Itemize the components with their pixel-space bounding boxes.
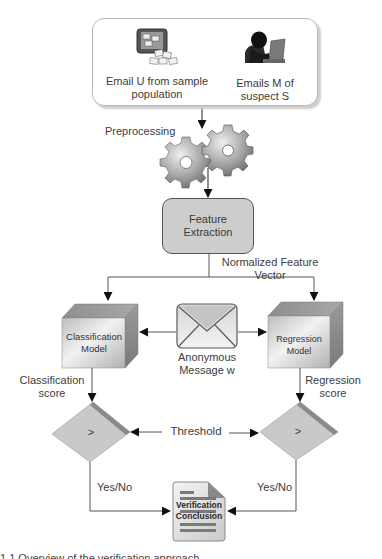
regression-score-label-line2: score xyxy=(320,387,347,399)
verification-conclusion-label-line1: Verification xyxy=(176,500,222,510)
anonymous-message-label-line2: Message w xyxy=(179,364,235,376)
figure-caption: 1.1 Overview of the verification approac… xyxy=(0,549,199,559)
feature-extraction-label-line1: Feature xyxy=(189,213,227,225)
hooded-suspect-laptop-icon xyxy=(241,31,287,63)
suspect-emails-label-line2: suspect S xyxy=(241,90,289,102)
classification-score-label-line1: Classification xyxy=(20,374,85,386)
sample-population-label: Email U from sample population xyxy=(101,75,213,101)
regression-score-label-line1: Regression xyxy=(305,374,361,386)
left-comparator-symbol: > xyxy=(84,426,98,439)
verification-conclusion-label-line2: Conclusion xyxy=(176,511,222,521)
regression-model-label-line2: Model xyxy=(287,346,312,356)
feature-vector-label: Normalized Feature Vector xyxy=(212,256,328,282)
suspect-emails-label-line1: Emails M of xyxy=(236,77,293,89)
feature-vector-label-line2: Vector xyxy=(254,269,285,281)
computer-with-emails-icon xyxy=(133,27,179,67)
classification-model-label-line2: Model xyxy=(81,343,107,354)
classification-model-label-line1: Classification xyxy=(66,331,122,342)
regression-score-label: Regression score xyxy=(302,374,364,400)
right-yes-no-label: Yes/No xyxy=(257,481,292,494)
classification-score-label-line2: score xyxy=(39,387,66,399)
classification-score-label: Classification score xyxy=(14,374,90,400)
feature-extraction-label-line2: Extraction xyxy=(184,226,233,238)
verification-conclusion-label: Verification Conclusion xyxy=(168,500,230,522)
regression-model-label-line1: Regression xyxy=(276,334,322,344)
left-yes-no-label: Yes/No xyxy=(97,481,132,494)
right-comparator-symbol: > xyxy=(291,425,305,438)
anonymous-message-label: Anonymous Message w xyxy=(166,351,248,377)
sample-population-label-line1: Email U from sample xyxy=(106,75,208,87)
anonymous-message-label-line1: Anonymous xyxy=(178,351,236,363)
classification-model-label: Classification Model xyxy=(60,331,128,355)
sample-population-label-line2: population xyxy=(132,88,183,100)
regression-model-label: Regression Model xyxy=(266,333,332,357)
threshold-label: Threshold xyxy=(164,425,228,438)
preprocessing-label: Preprocessing xyxy=(105,125,175,138)
source-emails-box: Email U from sample population Emails M … xyxy=(92,18,318,106)
envelope-icon xyxy=(177,304,237,348)
feature-extraction-node: Feature Extraction xyxy=(162,198,254,254)
feature-vector-label-line1: Normalized Feature xyxy=(222,256,319,268)
suspect-emails-label: Emails M of suspect S xyxy=(217,77,313,103)
